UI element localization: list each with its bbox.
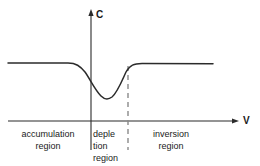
cv-characteristic-curve xyxy=(8,63,213,99)
region-label-accumulation-line2: region xyxy=(8,140,88,152)
voltage-axis xyxy=(8,118,239,123)
region-label-depletion-line3: region xyxy=(93,152,133,164)
region-label-depletion-line1: deple xyxy=(93,128,133,140)
region-label-inversion-line2: region xyxy=(134,140,208,152)
region-label-depletion-line2: tion xyxy=(93,140,133,152)
region-label-depletion: deple tion region xyxy=(93,128,133,164)
voltage-axis-arrowhead xyxy=(232,118,239,123)
capacitance-axis-label: C xyxy=(96,10,103,20)
cv-curve-figure: C V accumulation region deple tion regio… xyxy=(0,0,260,166)
region-label-accumulation-line1: accumulation xyxy=(8,128,88,140)
region-label-inversion: inversion region xyxy=(134,128,208,152)
capacitance-axis-arrowhead xyxy=(88,9,93,16)
voltage-axis-label: V xyxy=(243,116,250,126)
region-label-accumulation: accumulation region xyxy=(8,128,88,152)
region-label-inversion-line1: inversion xyxy=(134,128,208,140)
